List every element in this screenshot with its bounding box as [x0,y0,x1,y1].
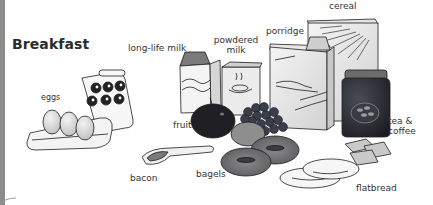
eggs-box-icon [27,70,133,150]
label-bagels: bagels [196,169,226,179]
page-curl-icon [0,196,16,205]
label-cereal: cereal [329,1,357,11]
tea-bags-icon [345,139,391,165]
label-flatbread: flatbread [356,183,397,193]
label-tea-coffee-line2: coffee [388,126,416,136]
label-porridge: porridge [266,26,304,36]
label-powdered-milk: powdered milk [212,35,260,55]
flatbread-icon [280,159,359,188]
label-powdered-milk-line1: powdered [212,35,260,45]
bagels-icon [221,136,299,176]
label-tea-coffee-line1: tea & [388,116,416,126]
label-fruit: fruit [173,120,192,130]
label-eggs: eggs [41,93,60,103]
label-tea-coffee: tea & coffee [388,116,416,136]
label-long-life-milk: long-life milk [128,43,186,53]
tea-coffee-jar-icon [342,70,390,137]
bacon-icon [142,146,214,164]
page-title: Breakfast [12,36,89,52]
label-powdered-milk-line2: milk [212,45,260,55]
label-bacon: bacon [130,173,157,183]
